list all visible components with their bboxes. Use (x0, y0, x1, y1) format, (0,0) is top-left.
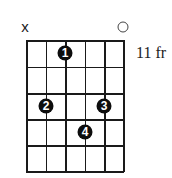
start-fret-label: 11 fr (136, 44, 166, 62)
finger-dot-4: 4 (78, 125, 93, 140)
fret-line (26, 145, 124, 147)
finger-dot-2: 2 (39, 99, 54, 114)
fret-line (26, 40, 124, 42)
string-line (26, 40, 28, 172)
finger-dot-1: 1 (58, 46, 73, 61)
fret-line (26, 93, 124, 95)
muted-string-marker: x (21, 19, 29, 34)
finger-dot-3: 3 (97, 99, 112, 114)
fret-line (26, 119, 124, 121)
fret-line (26, 171, 124, 173)
fret-line (26, 67, 124, 69)
open-string-icon (118, 22, 129, 33)
string-line (123, 40, 125, 172)
string-line (85, 40, 87, 172)
